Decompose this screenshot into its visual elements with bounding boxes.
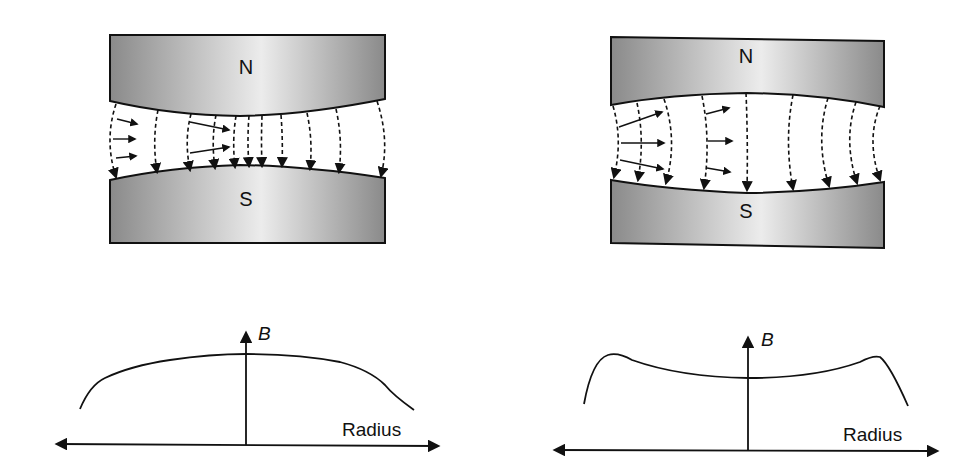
b-curve-left xyxy=(80,354,414,410)
north-label-right: N xyxy=(739,45,753,67)
south-label-left-text: S xyxy=(239,188,252,210)
south-label-right: S xyxy=(739,200,752,222)
north-label-left: N xyxy=(239,56,253,78)
radius-axis-label-right: Radius xyxy=(843,424,902,445)
field-lines-right xyxy=(613,93,880,190)
b-axis-label-right: B xyxy=(761,329,774,350)
b-curve-right xyxy=(584,354,908,406)
b-axis-label-left: B xyxy=(258,323,271,344)
radius-axis-right xyxy=(555,450,937,451)
left-panel: N S xyxy=(110,35,385,243)
radius-axis-left xyxy=(57,444,438,446)
right-graph: B Radius xyxy=(555,329,937,451)
magnet-field-figure: N S N xyxy=(0,0,975,470)
left-graph: B Radius xyxy=(57,323,438,446)
force-arrows-left xyxy=(113,119,229,158)
force-arrows-right xyxy=(619,108,732,172)
right-panel: N S xyxy=(611,37,884,248)
radius-axis-label-left: Radius xyxy=(342,419,401,440)
